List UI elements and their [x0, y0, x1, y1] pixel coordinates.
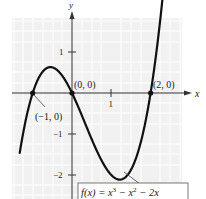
function-label-mid: − x — [116, 187, 133, 198]
x-axis-label: x — [194, 88, 200, 99]
function-graph: x y 1 1 −1 −2 (0, 0) (2, 0) (−1, 0) f(x)… — [0, 0, 206, 199]
point-label-0-0: (0, 0) — [74, 79, 96, 91]
y-axis-arrow-icon — [70, 11, 75, 19]
point-2-0 — [148, 90, 153, 95]
point-label-2-0: (2, 0) — [153, 79, 175, 91]
function-label: f(x) = x3 − x2 − 2x — [81, 186, 159, 199]
point-label-neg1-0: (−1, 0) — [35, 111, 62, 123]
x-tick-label-1: 1 — [109, 99, 114, 109]
y-axis-label: y — [68, 0, 73, 10]
function-label-prefix: f(x) = x — [81, 187, 113, 199]
point-neg1-0 — [30, 90, 35, 95]
function-label-suffix: − 2x — [137, 187, 160, 198]
point-0-0 — [69, 90, 74, 95]
y-tick-label-neg1: −1 — [53, 129, 63, 139]
x-axis-arrow-icon — [184, 91, 192, 96]
y-tick-label-1: 1 — [59, 47, 64, 57]
y-tick-label-neg2: −2 — [53, 170, 63, 180]
